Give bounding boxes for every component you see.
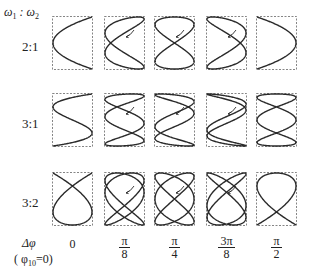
lissajous-figure (256, 93, 297, 147)
lissajous-figure (52, 93, 93, 147)
phase-value: 0 (70, 237, 76, 251)
lissajous-curve (105, 17, 144, 69)
lissajous-figure (206, 16, 247, 70)
lissajous-curve (53, 94, 92, 146)
fraction: π8 (119, 235, 129, 261)
fraction: π4 (169, 235, 179, 261)
lissajous-figure (206, 93, 247, 147)
phase-label: 0 (52, 238, 93, 250)
direction-arrow-icon (176, 30, 184, 38)
row-label-3-1: 3:1 (22, 116, 39, 132)
lissajous-figure (256, 172, 297, 226)
phi0-subscript: 10 (28, 259, 36, 268)
denominator: 8 (119, 248, 129, 261)
lissajous-curve (207, 173, 246, 225)
phase-label: 3π8 (206, 235, 247, 261)
lissajous-curve (105, 94, 144, 146)
direction-arrow-icon (176, 186, 184, 194)
lissajous-figure (52, 172, 93, 226)
phase-difference-label: Δφ (22, 236, 36, 251)
lissajous-curve (207, 17, 246, 69)
lissajous-curve (155, 17, 194, 69)
phase-label: π8 (104, 235, 145, 261)
lissajous-figure (206, 172, 247, 226)
row-label-2-1: 2:1 (22, 39, 39, 55)
row-label-3-2: 3:2 (22, 195, 39, 211)
dashed-frame (207, 94, 247, 147)
lissajous-curve (257, 17, 296, 69)
lissajous-curve (105, 173, 144, 225)
direction-arrow-icon (126, 186, 134, 194)
lissajous-curve (53, 17, 92, 69)
lissajous-figure (104, 172, 145, 226)
lissajous-curve (155, 173, 194, 225)
omega2-subscript: 2 (35, 12, 39, 21)
lissajous-curve (257, 173, 296, 225)
phi0-close: =0) (36, 252, 53, 266)
lissajous-curve (257, 94, 296, 146)
lissajous-figure (154, 172, 195, 226)
phase-label: π4 (154, 235, 195, 261)
phase-label: π2 (256, 235, 297, 261)
denominator: 4 (169, 248, 179, 261)
lissajous-figure (256, 16, 297, 70)
initial-phase-note: ( φ10=0) (14, 252, 53, 268)
lissajous-figure (154, 16, 195, 70)
frequency-ratio-header: ω1 : ω2 (4, 5, 39, 21)
lissajous-figure (52, 16, 93, 70)
lissajous-curve (53, 173, 92, 225)
ratio-separator: : (16, 5, 26, 19)
lissajous-curve (207, 94, 246, 146)
lissajous-curve (155, 94, 194, 146)
denominator: 2 (271, 248, 281, 261)
lissajous-figure (154, 93, 195, 147)
fraction: π2 (271, 235, 281, 261)
lissajous-figure (104, 16, 145, 70)
fraction: 3π8 (218, 235, 234, 261)
denominator: 8 (218, 248, 234, 261)
lissajous-figure (104, 93, 145, 147)
dashed-frame (105, 94, 145, 147)
phi0-open: ( φ (14, 252, 28, 266)
omega2-symbol: ω (26, 5, 34, 19)
